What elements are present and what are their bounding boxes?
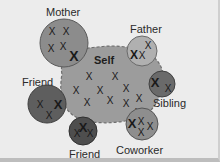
father-node: Father X X X: [127, 23, 162, 66]
sibling-node: X X Sibling: [149, 71, 186, 109]
x-mark: X: [49, 26, 56, 37]
x-mark: X: [151, 75, 160, 90]
coworker-label: Coworker: [116, 144, 163, 156]
relationship-diagram: Self X X X X X X X X X X Mother X X X X …: [0, 0, 220, 162]
x-mark: X: [139, 50, 146, 61]
x-mark: X: [69, 48, 79, 64]
x-mark: X: [130, 48, 138, 62]
x-mark: X: [138, 116, 145, 127]
x-mark: X: [165, 83, 172, 94]
father-label: Father: [130, 23, 162, 35]
mother-node: Mother X X X X X: [40, 6, 88, 67]
x-mark: X: [54, 97, 63, 112]
x-mark: X: [84, 97, 91, 108]
x-mark: X: [145, 40, 152, 51]
x-mark: X: [97, 85, 104, 96]
x-mark: X: [128, 116, 137, 131]
x-mark: X: [60, 41, 67, 52]
x-mark: X: [107, 95, 114, 106]
x-mark: X: [147, 121, 154, 132]
x-mark: X: [48, 43, 55, 54]
x-mark: X: [46, 110, 53, 121]
x-mark: X: [87, 128, 94, 139]
x-mark: X: [63, 26, 70, 37]
x-mark: X: [138, 127, 145, 138]
friend-left-node: Friend X X X: [22, 76, 66, 123]
mother-label: Mother: [46, 6, 81, 18]
x-mark: X: [123, 98, 130, 109]
x-mark: X: [37, 99, 44, 110]
x-mark: X: [112, 71, 119, 82]
x-mark: X: [86, 71, 93, 82]
self-label: Self: [94, 54, 115, 66]
x-mark: X: [73, 85, 80, 96]
x-mark: X: [136, 93, 143, 104]
friend-bottom-label: Friend: [69, 148, 100, 160]
sibling-label: Sibling: [153, 97, 186, 109]
friend-bottom-node: X X X Friend: [69, 117, 100, 160]
x-mark: X: [123, 83, 130, 94]
